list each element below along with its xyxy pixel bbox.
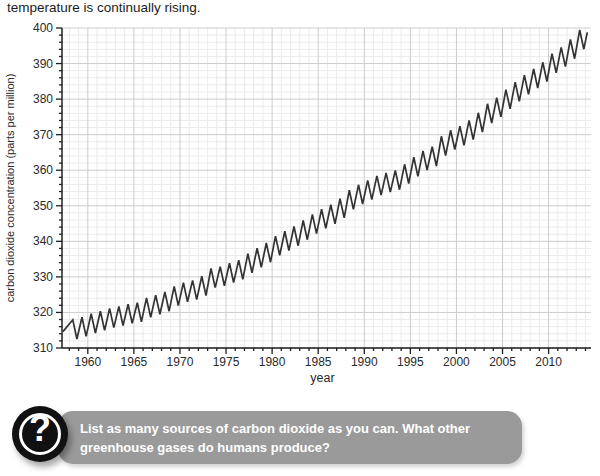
y-tick-label: 310 [33, 341, 53, 355]
x-tick-label: 1975 [213, 355, 240, 369]
y-tick-label: 330 [33, 270, 53, 284]
y-axis-label: carbon dioxide concentration (parts per … [4, 74, 16, 303]
y-tick-label: 320 [33, 305, 53, 319]
x-tick-label: 1985 [305, 355, 332, 369]
question-text: List as many sources of carbon dioxide a… [58, 411, 522, 457]
x-tick-label: 1970 [167, 355, 194, 369]
question-box: List as many sources of carbon dioxide a… [58, 411, 522, 464]
y-tick-label: 400 [33, 21, 53, 35]
y-tick-label: 340 [33, 234, 53, 248]
x-tick-label: 1995 [397, 355, 424, 369]
y-tick-label: 360 [33, 163, 53, 177]
x-tick-label: 2010 [535, 355, 562, 369]
x-tick-label: 1965 [121, 355, 148, 369]
y-tick-label: 390 [33, 57, 53, 71]
x-axis-label: year [310, 371, 334, 385]
y-tick-label: 380 [33, 92, 53, 106]
x-tick-label: 1980 [259, 355, 286, 369]
grid-minor [62, 28, 591, 348]
y-tick-label: 350 [33, 199, 53, 213]
question-icon-glyph: ? [12, 411, 68, 447]
x-tick-label: 2000 [443, 355, 470, 369]
page-root: temperature is continually rising. 19601… [0, 0, 600, 476]
x-tick-label: 1960 [74, 355, 101, 369]
co2-chart: 1960196519701975198019851990199520002005… [0, 0, 600, 400]
x-tick-label: 1990 [351, 355, 378, 369]
y-tick-label: 370 [33, 128, 53, 142]
axis-labels: 1960196519701975198019851990199520002005… [33, 21, 562, 369]
question-mark-icon: ? [12, 406, 68, 462]
x-tick-label: 2005 [489, 355, 516, 369]
